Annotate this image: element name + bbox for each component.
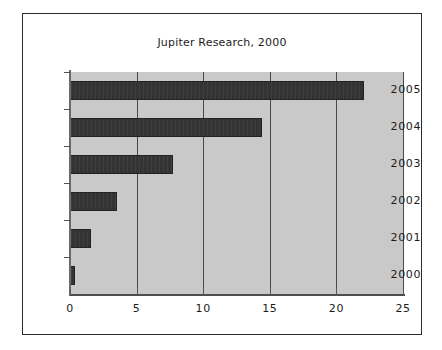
y-axis-tick-label-2001: 2001 [377, 231, 421, 244]
x-axis-tick-mark [270, 289, 271, 296]
chart-title: Jupiter Research, 2000 [23, 36, 421, 49]
x-axis-tick-mark [70, 289, 71, 296]
y-axis-tick-mark [64, 220, 70, 221]
x-axis-line [70, 294, 405, 296]
bar-2001[interactable] [70, 229, 91, 248]
bar-row [70, 183, 404, 220]
bar-row [70, 220, 404, 257]
bar-2005[interactable] [70, 81, 364, 100]
x-axis-tick-label-25: 25 [383, 302, 423, 315]
bar-row [70, 109, 404, 146]
y-axis-tick-mark [64, 72, 70, 73]
y-axis-tick-label-2004: 2004 [377, 120, 421, 133]
plot-area [70, 72, 404, 294]
bar-2004[interactable] [70, 118, 262, 137]
y-axis-tick-mark [64, 146, 70, 147]
y-axis-tick-mark [64, 257, 70, 258]
x-axis-tick-label-0: 0 [50, 302, 90, 315]
bar-row [70, 146, 404, 183]
x-axis-tick-mark [336, 289, 337, 296]
y-axis-tick-label-2000: 2000 [377, 268, 421, 281]
bar-row [70, 257, 404, 294]
bar-row [70, 72, 404, 109]
y-axis-tick-mark [64, 183, 70, 184]
bar-2002[interactable] [70, 192, 117, 211]
x-axis-tick-label-10: 10 [183, 302, 223, 315]
x-axis-tick-label-5: 5 [117, 302, 157, 315]
x-axis-tick-mark [203, 289, 204, 296]
x-axis-tick-mark [403, 289, 404, 296]
y-axis-tick-label-2003: 2003 [377, 157, 421, 170]
x-axis-tick-label-20: 20 [316, 302, 356, 315]
x-axis-tick-mark [137, 289, 138, 296]
y-axis-tick-label-2005: 2005 [377, 83, 421, 96]
x-axis-tick-label-15: 15 [250, 302, 290, 315]
y-axis-tick-mark [64, 109, 70, 110]
y-axis-tick-label-2002: 2002 [377, 194, 421, 207]
bar-2003[interactable] [70, 155, 173, 174]
chart-figure: Jupiter Research, 2000 20052004200320022… [22, 13, 422, 335]
